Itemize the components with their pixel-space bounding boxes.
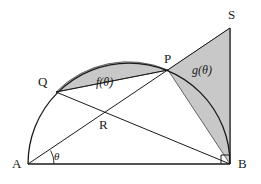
angle-label-theta: θ (54, 151, 59, 162)
region-label-g: g(θ) (192, 64, 212, 76)
point-label-p: P (164, 52, 171, 65)
region-label-f: f(θ) (96, 76, 113, 88)
point-label-b: B (238, 157, 247, 170)
point-label-r: R (99, 118, 108, 131)
geometry-figure: A B P Q R S f(θ) g(θ) θ (0, 0, 261, 184)
point-label-q: Q (38, 75, 47, 88)
point-label-a: A (12, 157, 21, 170)
point-label-s: S (228, 8, 235, 21)
figure-canvas (0, 0, 261, 184)
